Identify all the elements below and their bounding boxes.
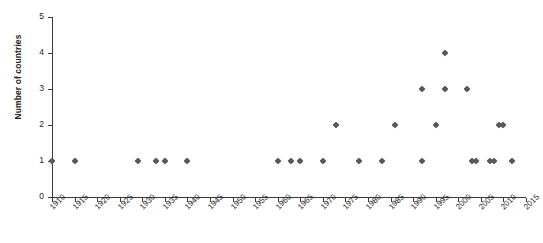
- data-point: [297, 157, 304, 164]
- data-point: [134, 157, 141, 164]
- data-point: [274, 157, 281, 164]
- data-point: [392, 121, 399, 128]
- data-point: [184, 157, 191, 164]
- data-point: [48, 157, 55, 164]
- data-point: [509, 157, 516, 164]
- data-point: [464, 85, 471, 92]
- data-point: [419, 157, 426, 164]
- data-point: [355, 157, 362, 164]
- data-point: [378, 157, 385, 164]
- data-point: [500, 121, 507, 128]
- data-point: [319, 157, 326, 164]
- y-tick-label: 2: [16, 120, 44, 129]
- data-point: [441, 85, 448, 92]
- y-tick-label: 4: [16, 48, 44, 57]
- data-point: [333, 121, 340, 128]
- data-point: [288, 157, 295, 164]
- y-tick-label: 3: [16, 84, 44, 93]
- scatter-chart: Number of countries 012345 1910191519201…: [0, 0, 543, 243]
- data-points-layer: [52, 17, 525, 197]
- data-point: [419, 85, 426, 92]
- y-tick-label: 1: [16, 156, 44, 165]
- data-point: [473, 157, 480, 164]
- y-tick-label: 0: [16, 192, 44, 201]
- y-tick-label: 5: [16, 12, 44, 21]
- data-point: [161, 157, 168, 164]
- data-point: [491, 157, 498, 164]
- data-point: [152, 157, 159, 164]
- data-point: [432, 121, 439, 128]
- data-point: [71, 157, 78, 164]
- data-point: [441, 49, 448, 56]
